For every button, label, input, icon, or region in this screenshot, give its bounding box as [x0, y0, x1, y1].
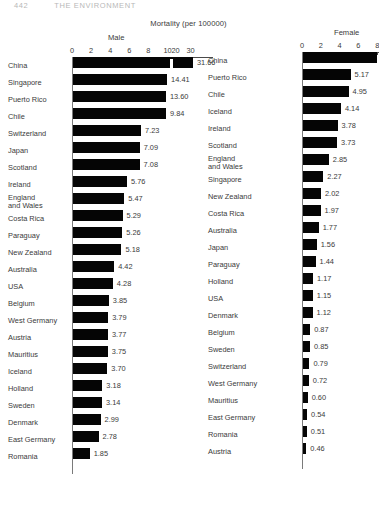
bar [72, 414, 101, 425]
bar-row: Paraguay5.26 [0, 227, 200, 244]
bar-row: Costa Rica5.29 [0, 210, 200, 227]
bar-category-label: Scotland [8, 163, 37, 171]
bar [302, 307, 313, 318]
bar [72, 176, 127, 187]
bar-value-label: 0.46 [310, 444, 324, 453]
bar-category-label: Mauritius [8, 350, 38, 358]
bar [72, 108, 166, 119]
bar-category-label: Japan [208, 243, 228, 251]
bar [302, 137, 337, 148]
bar-category-label: Belgium [8, 299, 35, 307]
bar [302, 290, 313, 301]
bar [302, 375, 309, 386]
bar-category-label: Ireland [8, 180, 31, 188]
bar-category-label: New Zealand [8, 248, 52, 256]
bar-row: England and Wales2.85 [200, 154, 377, 171]
axis-tick-label: 6 [356, 41, 360, 50]
axis-tick-label: 2 [319, 41, 323, 50]
bar-category-label: Belgium [208, 328, 235, 336]
bar-category-label: Denmark [8, 418, 38, 426]
male-panel: Male 02468102030 China31.66Singapore14.4… [0, 0, 200, 512]
bar-category-label: Denmark [208, 311, 238, 319]
bar-category-label: USA [208, 294, 223, 302]
axis-tick-label: 6 [127, 46, 131, 55]
bar [302, 52, 377, 63]
bar-category-label: China [208, 56, 227, 64]
bar-category-label: England and Wales [208, 154, 243, 170]
female-bar-rows: ChinaPuerto Rico5.17Chile4.95Iceland4.14… [200, 52, 377, 460]
bar-value-label: 7.08 [144, 160, 158, 169]
bar [302, 222, 319, 233]
bar-value-label: 0.87 [314, 325, 328, 334]
axis-tick-label: 8 [146, 46, 150, 55]
bar-value-label: 0.72 [313, 376, 327, 385]
bar-category-label: Iceland [208, 107, 232, 115]
bar-category-label: Australia [8, 265, 37, 273]
bar-row: Costa Rica1.97 [200, 205, 377, 222]
bar-value-label: 4.14 [345, 104, 359, 113]
bar-category-label: Holland [208, 277, 233, 285]
bar [72, 74, 167, 85]
bar-value-label: 5.17 [355, 70, 369, 79]
axis-baseline [72, 57, 73, 474]
bar [72, 278, 113, 289]
bar-category-label: East Germany [208, 413, 255, 421]
bar-row: China31.66 [0, 57, 200, 74]
bar-category-label: Paraguay [208, 260, 240, 268]
bar-category-label: USA [8, 282, 23, 290]
bar [302, 103, 341, 114]
bar [72, 91, 166, 102]
bar-value-label: 3.18 [106, 381, 120, 390]
bar [72, 125, 141, 136]
axis-tick-label: 4 [108, 46, 112, 55]
bar [302, 358, 309, 369]
bar-row: Puerto Rico13.60 [0, 91, 200, 108]
bar-category-label: Costa Rica [208, 209, 244, 217]
bar-row: Iceland4.14 [200, 103, 377, 120]
bar-row: Austria3.77 [0, 329, 200, 346]
bar-value-label: 3.77 [112, 330, 126, 339]
male-bar-rows: China31.66Singapore14.41Puerto Rico13.60… [0, 57, 200, 465]
bar-category-label: West Germany [208, 379, 257, 387]
axis-tick-label: 4 [338, 41, 342, 50]
bar [302, 205, 321, 216]
axis-baseline [302, 52, 303, 469]
bar-row: Switzerland0.79 [200, 358, 377, 375]
bar-row: Japan7.09 [0, 142, 200, 159]
bar [72, 329, 108, 340]
bar-row: Holland3.18 [0, 380, 200, 397]
bar-row: Chile4.95 [200, 86, 377, 103]
bar-category-label: New Zealand [208, 192, 252, 200]
bar-value-label: 14.41 [171, 75, 190, 84]
bar-row: West Germany3.79 [0, 312, 200, 329]
bar-value-label: 7.23 [145, 126, 159, 135]
bar [72, 448, 90, 459]
bar-row: USA1.15 [200, 290, 377, 307]
bar-axis-break-gap [170, 59, 173, 72]
axis-tick-label: 2 [89, 46, 93, 55]
bar-row: New Zealand2.02 [200, 188, 377, 205]
bar-value-label: 3.79 [112, 313, 126, 322]
bar-row: West Germany0.72 [200, 375, 377, 392]
bar-value-label: 1.12 [317, 308, 331, 317]
axis-tick-label: 30 [186, 46, 194, 55]
bar-row: Scotland3.73 [200, 137, 377, 154]
bar-row: Iceland3.70 [0, 363, 200, 380]
bar [302, 324, 310, 335]
bar-category-label: Australia [208, 226, 237, 234]
bar-category-label: Romania [8, 452, 38, 460]
bar-category-label: Switzerland [208, 362, 246, 370]
axis-tick-label: 0 [300, 41, 304, 50]
bar-value-label: 7.09 [144, 143, 158, 152]
bar-category-label: China [8, 61, 27, 69]
axis-tick-label: 0 [70, 46, 74, 55]
bar [72, 193, 124, 204]
bar-category-label: Singapore [8, 78, 42, 86]
bar-row: Denmark2.99 [0, 414, 200, 431]
bar [72, 397, 102, 408]
bar-value-label: 4.42 [118, 262, 132, 271]
bar [302, 154, 329, 165]
bar-category-label: England and Wales [8, 193, 43, 209]
bar-value-label: 3.70 [111, 364, 125, 373]
